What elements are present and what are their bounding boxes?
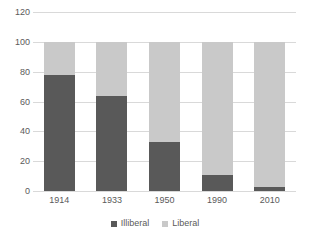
y-axis-tick-label: 40 bbox=[2, 127, 30, 136]
plot-area bbox=[33, 12, 296, 191]
bar-segment-illiberal[interactable] bbox=[96, 96, 127, 191]
legend-label: Liberal bbox=[172, 219, 199, 228]
bar-segment-illiberal[interactable] bbox=[149, 142, 180, 191]
x-axis-tick-label: 1950 bbox=[135, 196, 195, 205]
y-axis-tick-label: 100 bbox=[2, 38, 30, 47]
bar-group[interactable] bbox=[202, 12, 233, 191]
x-axis-tick-label: 1990 bbox=[187, 196, 247, 205]
legend-label: Illiberal bbox=[121, 219, 150, 228]
y-axis-tick-label: 0 bbox=[2, 187, 30, 196]
gridline bbox=[33, 191, 296, 192]
bar-segment-liberal[interactable] bbox=[44, 42, 75, 75]
legend-item-liberal[interactable]: Liberal bbox=[162, 219, 199, 228]
bar-segment-illiberal[interactable] bbox=[202, 175, 233, 191]
bar-group[interactable] bbox=[254, 12, 285, 191]
y-axis-tick-label: 120 bbox=[2, 8, 30, 17]
bar-segment-liberal[interactable] bbox=[254, 42, 285, 187]
bar-segment-illiberal[interactable] bbox=[44, 75, 75, 191]
legend-item-illiberal[interactable]: Illiberal bbox=[111, 219, 150, 228]
bar-group[interactable] bbox=[96, 12, 127, 191]
x-axis-tick-label: 1933 bbox=[82, 196, 142, 205]
x-axis-tick-label: 2010 bbox=[240, 196, 300, 205]
bar-segment-liberal[interactable] bbox=[96, 42, 127, 96]
bar-group[interactable] bbox=[149, 12, 180, 191]
y-axis-tick-label: 80 bbox=[2, 68, 30, 77]
chart-legend: IlliberalLiberal bbox=[0, 219, 310, 228]
legend-swatch-icon bbox=[162, 221, 168, 227]
legend-swatch-icon bbox=[111, 221, 117, 227]
y-axis-tick-label: 20 bbox=[2, 157, 30, 166]
y-axis-tick-label: 60 bbox=[2, 98, 30, 107]
stacked-bar-chart: 020406080100120 IlliberalLiberal 1914193… bbox=[0, 0, 310, 238]
bar-segment-liberal[interactable] bbox=[149, 42, 180, 142]
bar-segment-illiberal[interactable] bbox=[254, 187, 285, 191]
bar-group[interactable] bbox=[44, 12, 75, 191]
x-axis-tick-label: 1914 bbox=[29, 196, 89, 205]
y-axis: 020406080100120 bbox=[0, 0, 30, 238]
bar-segment-liberal[interactable] bbox=[202, 42, 233, 175]
